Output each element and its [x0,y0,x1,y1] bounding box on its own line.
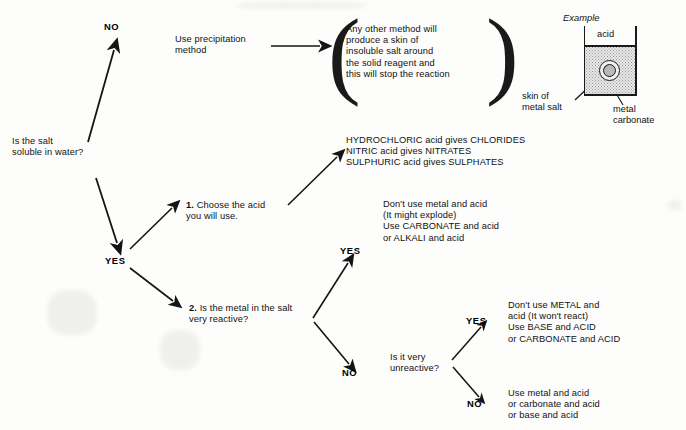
arrow-unreactive-no [453,367,479,397]
arrow-yes-to-step1 [130,208,172,249]
label-no-unreactive: NO [467,398,482,409]
root-question: Is the salt soluble in water? [12,136,83,158]
beaker-wall-bottom [584,94,637,96]
flowchart-canvas: NO Is the salt soluble in water? Use pre… [0,0,686,430]
scan-smudge [160,330,200,370]
step2-text: Is the metal in the salt very reactive? [189,303,292,324]
label-yes-unreactive: YES [466,315,486,326]
label-yes-reactive: YES [340,245,360,256]
precipitation-instruction: Use precipitation method [175,34,246,56]
acid-table: HYDROCHLORIC acid gives CHLORIDES NITRIC… [346,135,525,169]
arrow-root-no [88,50,114,142]
arrow-step2-no [314,322,349,364]
unreactive-yes-advice: Don't use METAL and acid (It won't react… [508,300,620,345]
arrow-unreactive-yes [452,327,481,360]
arrow-step2-yes [313,263,348,318]
arrow-step1-to-acids [288,157,337,205]
label-no-top: NO [104,21,119,32]
beaker-acid-label: acid [597,29,614,39]
arrow-yes-to-step2 [130,268,173,301]
note-brace-right: ) [486,4,519,102]
unreactive-question: Is it very unreactive? [390,352,439,374]
step2-block: 2. Is the metal in the salt very reactiv… [189,303,292,325]
step1-number: 1. [186,200,194,210]
label-no-reactive: NO [342,367,357,378]
step2-number: 2. [189,303,197,313]
beaker-skin-label: skin of metal salt [522,91,562,113]
beaker-wall-right [635,26,637,96]
label-yes-main: YES [105,255,125,266]
example-caption: Example [563,12,599,23]
unreactive-no-advice: Use metal and acid or carbonate and acid… [508,388,600,422]
beaker-carbonate-label: metal carbonate [613,104,654,126]
step1-block: 1. Choose the acid you will use. [186,200,265,222]
precipitation-note: Any other method will produce a skin of … [346,24,450,80]
step1-text: Choose the acid you will use. [186,200,265,221]
beaker-wall-left [584,26,586,96]
scan-smudge [668,200,682,210]
beaker-liquid-surface [585,45,636,46]
arrow-root-yes [96,178,117,243]
metal-carbonate-lump [603,64,616,77]
reactive-yes-advice: Don't use metal and acid (It might explo… [383,199,499,244]
scan-smudge [47,290,97,335]
